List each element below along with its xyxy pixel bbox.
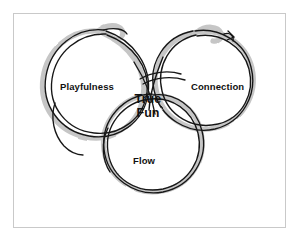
venn-label-flow: Flow xyxy=(133,156,155,167)
venn-label-true-fun: True Fun xyxy=(125,92,171,121)
venn-label-playfulness: Playfulness xyxy=(60,82,114,93)
venn-diagram-illustration xyxy=(0,0,300,242)
figure-root: Playfulness Connection Flow True Fun xyxy=(0,0,300,242)
true-fun-line-2: Fun xyxy=(125,106,171,120)
venn-label-connection: Connection xyxy=(191,82,244,93)
true-fun-line-1: True xyxy=(125,92,171,106)
